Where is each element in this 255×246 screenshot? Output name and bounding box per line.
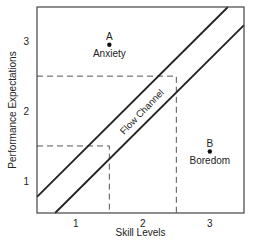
point-a: AAnxiety bbox=[93, 31, 126, 59]
y-axis-label: Performance Expectations bbox=[7, 51, 18, 168]
y-axis-ticks: 123 bbox=[23, 36, 29, 187]
point-letter-label: A bbox=[106, 31, 113, 42]
flow-channel-label: Flow Channel bbox=[118, 87, 166, 136]
point-dot bbox=[107, 43, 111, 47]
point-b: BBoredom bbox=[190, 138, 231, 166]
channel-upper-boundary bbox=[37, 7, 228, 197]
y-tick-label: 1 bbox=[23, 176, 29, 187]
x-axis-label: Skill Levels bbox=[115, 227, 165, 238]
x-tick-label: 3 bbox=[207, 218, 213, 229]
x-tick-label: 1 bbox=[73, 218, 79, 229]
point-caption: Boredom bbox=[190, 155, 231, 166]
point-caption: Anxiety bbox=[93, 48, 126, 59]
channel-lower-boundary bbox=[55, 25, 244, 213]
y-tick-label: 3 bbox=[23, 36, 29, 47]
guide-1-5 bbox=[37, 146, 109, 213]
point-dot bbox=[208, 149, 212, 153]
point-letter-label: B bbox=[206, 138, 213, 149]
flow-channel-diagram: 123 123 Skill Levels Performance Expecta… bbox=[0, 0, 255, 246]
y-tick-label: 2 bbox=[23, 106, 29, 117]
